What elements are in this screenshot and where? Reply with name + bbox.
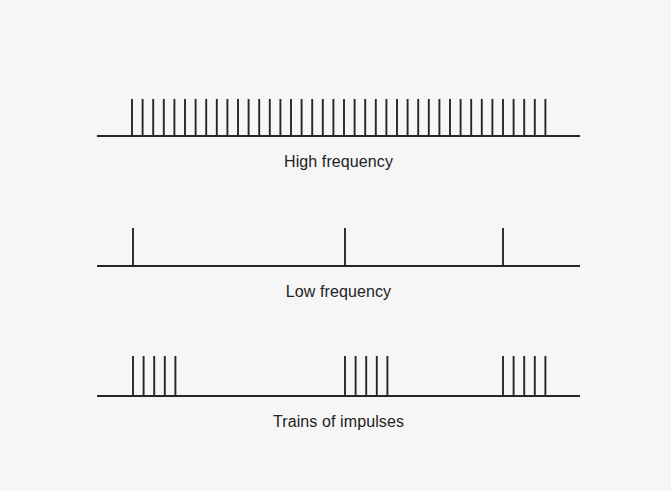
low-frequency-label: Low frequency (97, 283, 580, 301)
trains-of-impulses-label: Trains of impulses (97, 413, 580, 431)
high-frequency-label: High frequency (97, 153, 580, 171)
impulse-trains-spike-train (97, 356, 580, 396)
low-frequency-spike-train (97, 228, 580, 266)
high-frequency-spike-train (97, 99, 580, 136)
